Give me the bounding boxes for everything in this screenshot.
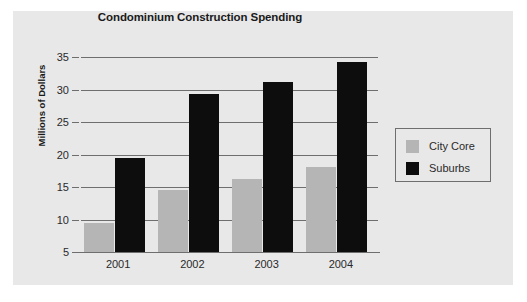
y-tick-mark <box>72 122 79 123</box>
bar-city-core-2004 <box>306 167 336 252</box>
y-tick-label: 25 <box>57 116 69 128</box>
y-tick-mark <box>72 57 79 58</box>
legend-item-suburbs: Suburbs <box>406 161 470 175</box>
legend-swatch-icon <box>406 162 419 175</box>
chart-legend: City CoreSuburbs <box>395 128 491 182</box>
gridline <box>81 122 378 123</box>
y-tick-mark <box>72 220 79 221</box>
gridline <box>81 155 378 156</box>
y-tick-label: 5 <box>63 246 69 258</box>
y-tick-label: 20 <box>57 149 69 161</box>
legend-item-city-core: City Core <box>406 139 475 153</box>
gridline <box>81 90 378 91</box>
legend-swatch-icon <box>406 140 419 153</box>
bar-suburbs-2004 <box>337 62 367 252</box>
x-tick-label: 2002 <box>155 258 229 270</box>
y-tick-label: 35 <box>57 51 69 63</box>
bar-city-core-2001 <box>84 223 114 252</box>
y-axis-tick-labels: 5101520253035 <box>41 57 69 252</box>
y-tick-mark <box>72 155 79 156</box>
bar-city-core-2002 <box>158 190 188 252</box>
y-tick-mark <box>72 90 79 91</box>
x-tick-label: 2001 <box>81 258 155 270</box>
legend-label: Suburbs <box>429 162 470 174</box>
chart-title: Condominium Construction Spending <box>0 11 400 23</box>
plot-area <box>81 57 378 252</box>
x-tick-label: 2003 <box>230 258 304 270</box>
y-tick-label: 30 <box>57 84 69 96</box>
bar-suburbs-2003 <box>263 82 293 252</box>
bar-suburbs-2002 <box>189 94 219 252</box>
bar-suburbs-2001 <box>115 158 145 252</box>
y-tick-label: 10 <box>57 214 69 226</box>
chart-screenshot: Condominium Construction Spending Millio… <box>0 0 527 302</box>
bar-city-core-2003 <box>232 179 262 252</box>
y-tick-label: 15 <box>57 181 69 193</box>
x-axis-line <box>79 252 380 253</box>
gridline <box>81 57 378 58</box>
y-tick-mark <box>72 252 79 253</box>
y-tick-mark <box>72 187 79 188</box>
x-tick-label: 2004 <box>304 258 378 270</box>
legend-label: City Core <box>429 140 475 152</box>
